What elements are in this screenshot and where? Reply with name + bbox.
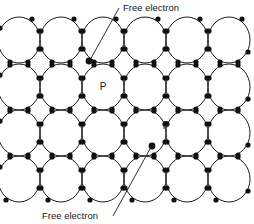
electron-dot	[175, 62, 180, 67]
electron-dot	[206, 121, 211, 126]
electron-dot	[151, 62, 156, 67]
electron-dot	[109, 108, 114, 113]
electron-dot	[80, 185, 85, 190]
electron-dot	[133, 62, 138, 67]
electron-dot	[206, 167, 211, 172]
electron-dot	[80, 93, 85, 98]
electron-dot	[67, 108, 72, 113]
electron-dot	[206, 139, 211, 144]
electron-dot	[122, 185, 127, 190]
electron-dot	[245, 188, 250, 193]
electron-dot	[206, 75, 211, 80]
electron-dot	[175, 108, 180, 113]
electron-dot	[122, 28, 127, 33]
electron-dot	[217, 108, 222, 113]
electron-dot	[122, 75, 127, 80]
electron-dot	[38, 46, 43, 51]
electron-dot	[151, 108, 156, 113]
electron-dot	[206, 185, 211, 190]
electron-dot	[133, 154, 138, 159]
electron-dot	[122, 46, 127, 51]
electron-dot	[122, 121, 127, 126]
electron-dot	[38, 28, 43, 33]
electron-dot	[109, 154, 114, 159]
electron-dot	[67, 154, 72, 159]
electron-dot	[91, 108, 96, 113]
electron-dot	[38, 121, 43, 126]
electron-dot	[239, 16, 244, 21]
free-electron-label: Free electron	[42, 210, 98, 221]
electron-dot	[87, 197, 92, 202]
electron-dot	[151, 154, 156, 159]
electron-dot	[25, 154, 30, 159]
electron-dot	[164, 28, 169, 33]
electron-dot	[206, 93, 211, 98]
electron-dot	[29, 16, 34, 21]
electron-dot	[217, 154, 222, 159]
free-electron-dot	[149, 143, 156, 150]
lattice-diagram: PP Free electronFree electron	[0, 0, 254, 224]
electron-dot	[235, 62, 240, 67]
electron-dot	[217, 62, 222, 67]
electron-dot	[164, 75, 169, 80]
electron-dot	[245, 142, 250, 147]
electron-dot	[133, 108, 138, 113]
electron-dot	[49, 108, 54, 113]
electron-dot	[171, 197, 176, 202]
electron-dot	[206, 46, 211, 51]
free-electron-dot	[86, 58, 93, 65]
electron-dot	[25, 62, 30, 67]
electron-dot	[38, 167, 43, 172]
electron-dot	[175, 154, 180, 159]
electron-dot	[109, 62, 114, 67]
electron-dot	[91, 154, 96, 159]
electron-dot	[122, 167, 127, 172]
electron-dot	[7, 62, 12, 67]
electron-dot	[7, 108, 12, 113]
electron-dot	[38, 185, 43, 190]
electron-dot	[45, 197, 50, 202]
electron-dot	[164, 46, 169, 51]
free-electron-label: Free electron	[123, 2, 179, 13]
electron-dot	[38, 139, 43, 144]
electron-dot	[80, 139, 85, 144]
electron-dot	[193, 62, 198, 67]
electron-dot	[235, 154, 240, 159]
electron-dot	[193, 108, 198, 113]
electron-dot	[164, 167, 169, 172]
electron-dot	[164, 185, 169, 190]
electron-dot	[197, 16, 202, 21]
electron-dot	[7, 154, 12, 159]
lattice-svg: PP Free electronFree electron	[0, 0, 254, 224]
electron-dot	[213, 197, 218, 202]
electron-dot	[193, 154, 198, 159]
electron-dot	[164, 93, 169, 98]
electron-dot	[80, 75, 85, 80]
electron-dot	[49, 62, 54, 67]
electron-dot	[245, 49, 250, 54]
electron-dot	[80, 121, 85, 126]
electron-dot	[3, 197, 8, 202]
electron-dot	[25, 108, 30, 113]
dopant-label-p: P	[163, 120, 170, 131]
electron-dot	[206, 28, 211, 33]
electron-dot	[67, 62, 72, 67]
dopant-label-p: P	[100, 81, 107, 92]
electron-dot	[38, 93, 43, 98]
electron-dot	[49, 154, 54, 159]
electron-dot	[38, 75, 43, 80]
electron-dot	[122, 139, 127, 144]
electron-dot	[164, 139, 169, 144]
electron-dot	[155, 16, 160, 21]
electron-dot	[80, 167, 85, 172]
electron-dot	[235, 108, 240, 113]
electron-dot	[122, 93, 127, 98]
electron-dot	[80, 28, 85, 33]
electron-dot	[129, 197, 134, 202]
electron-dot	[80, 46, 85, 51]
electron-dot	[71, 16, 76, 21]
electron-dot	[91, 62, 96, 67]
electron-dot	[245, 96, 250, 101]
